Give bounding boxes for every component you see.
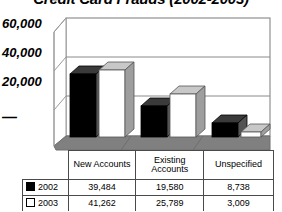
- legend-label-2002: 2002: [38, 182, 58, 192]
- column-header-new-accounts: New Accounts: [68, 151, 136, 180]
- data-table: New Accounts Existing Accounts Unspecifi…: [22, 150, 274, 211]
- legend-label-2003: 2003: [38, 198, 58, 208]
- cell-2002-unspecified: 8,738: [204, 180, 274, 196]
- table-header-row: New Accounts Existing Accounts Unspecifi…: [23, 151, 274, 180]
- filled-square-icon: [26, 182, 35, 191]
- legend-entry-2002: 2002: [23, 180, 69, 196]
- cell-2002-new-accounts: 39,484: [68, 180, 136, 196]
- column-header-unspecified: Unspecified: [204, 151, 274, 180]
- plot-area: [0, 0, 282, 160]
- table-row: 2003 41,262 25,789 3,009: [23, 196, 274, 212]
- cell-2003-existing-accounts: 25,789: [136, 196, 204, 212]
- chart-figure: Credit Card Frauds (2002-2003) 60,000 40…: [0, 0, 282, 211]
- cell-2003-unspecified: 3,009: [204, 196, 274, 212]
- column-header-existing-accounts: Existing Accounts: [136, 151, 204, 180]
- table-corner-cell: [23, 151, 69, 180]
- legend-entry-2003: 2003: [23, 196, 69, 212]
- plot-floor: [54, 136, 270, 150]
- bar-2003-existing-accounts: [170, 86, 205, 137]
- table-row: 2002 39,484 19,580 8,738: [23, 180, 274, 196]
- cell-2002-existing-accounts: 19,580: [136, 180, 204, 196]
- plot-left-wall: [54, 18, 66, 146]
- open-square-icon: [26, 198, 35, 207]
- bar-2003-new-accounts: [99, 62, 134, 137]
- cell-2003-new-accounts: 41,262: [68, 196, 136, 212]
